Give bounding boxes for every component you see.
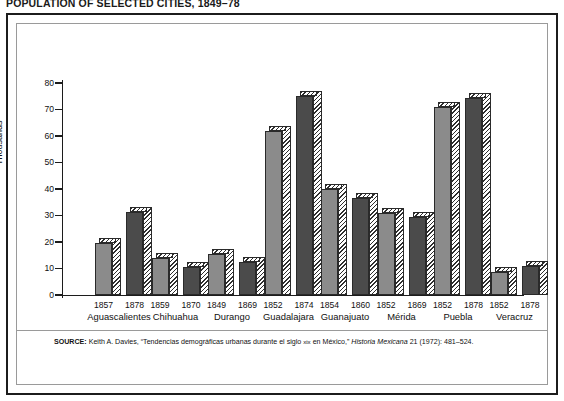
bar-body bbox=[522, 266, 539, 295]
x-axis-year-label: 1854 bbox=[312, 301, 347, 310]
bar-veracruz-1878 bbox=[522, 266, 539, 295]
source-divider bbox=[16, 330, 548, 331]
x-axis-year-label: 1878 bbox=[513, 301, 548, 310]
source-citation-tail: 21 (1972): 481–524. bbox=[408, 338, 474, 346]
y-axis-tick bbox=[55, 135, 62, 136]
y-axis-tick-label: 40 bbox=[14, 185, 54, 194]
bar-guadalajara-1874 bbox=[296, 96, 313, 295]
y-axis-tick bbox=[55, 268, 62, 269]
y-axis-tick-label: 10 bbox=[14, 264, 54, 273]
bar-body bbox=[152, 258, 169, 295]
bar-mérida-1852 bbox=[378, 213, 395, 295]
bar-puebla-1852 bbox=[434, 107, 451, 295]
bar-durango-1869 bbox=[239, 262, 256, 295]
y-axis-tick bbox=[55, 294, 62, 295]
x-axis-city-label: Veracruz bbox=[469, 312, 561, 321]
bar-guanajuato-1860 bbox=[352, 198, 369, 295]
x-axis-year-label: 1852 bbox=[369, 301, 404, 310]
bar-shadow-right bbox=[539, 261, 548, 295]
bar-body bbox=[465, 98, 482, 295]
source-journal: Historia Mexicana bbox=[351, 338, 407, 346]
bar-body bbox=[126, 212, 143, 295]
bar-body bbox=[491, 272, 508, 295]
y-axis-tick-label: 80 bbox=[14, 79, 54, 88]
y-axis-tick bbox=[55, 215, 62, 216]
bar-aguascalientes-1878 bbox=[126, 212, 143, 295]
y-axis-tick bbox=[55, 162, 62, 163]
bar-body bbox=[239, 262, 256, 295]
bar-chihuahua-1870 bbox=[183, 267, 200, 295]
bar-shadow-right bbox=[112, 238, 121, 295]
x-axis-year-label: 1857 bbox=[86, 301, 121, 310]
bar-shadow-right bbox=[282, 126, 291, 295]
y-axis-tick-label: 20 bbox=[14, 238, 54, 247]
bar-body bbox=[296, 96, 313, 295]
y-axis-tick-labels: 01020304050607080 bbox=[8, 0, 54, 401]
bar-body bbox=[183, 267, 200, 295]
bar-body bbox=[321, 189, 338, 295]
y-axis-tick bbox=[55, 82, 62, 83]
bar-shadow-right bbox=[338, 184, 347, 295]
bar-chihuahua-1859 bbox=[152, 258, 169, 295]
bar-shadow-right bbox=[395, 208, 404, 295]
bar-aguascalientes-1857 bbox=[95, 243, 112, 295]
source-author: Keith A. Davies, “Tendencias demográfica… bbox=[87, 338, 303, 346]
y-axis-title: Thousands bbox=[0, 120, 4, 165]
x-axis-year-label: 1849 bbox=[199, 301, 234, 310]
source-note: SOURCE: Keith A. Davies, “Tendencias dem… bbox=[54, 338, 524, 347]
bar-guanajuato-1854 bbox=[321, 189, 338, 295]
y-axis-tick-label: 70 bbox=[14, 105, 54, 114]
source-century: xix bbox=[303, 338, 310, 345]
bar-shadow-right bbox=[451, 102, 460, 295]
bar-body bbox=[434, 107, 451, 295]
bar-body bbox=[265, 131, 282, 295]
y-axis-tick-label: 50 bbox=[14, 158, 54, 167]
bar-puebla-1878 bbox=[465, 98, 482, 295]
x-axis-year-label: 1852 bbox=[482, 301, 517, 310]
x-axis-year-label: 1852 bbox=[256, 301, 291, 310]
bar-veracruz-1852 bbox=[491, 272, 508, 295]
bar-body bbox=[208, 254, 225, 295]
bar-shadow-right bbox=[169, 253, 178, 295]
source-middle: en México,” bbox=[311, 338, 352, 346]
y-axis-tick bbox=[55, 241, 62, 242]
x-axis-year-label: 1859 bbox=[143, 301, 178, 310]
y-axis-tick bbox=[55, 188, 62, 189]
y-axis-tick-label: 0 bbox=[14, 291, 54, 300]
bar-body bbox=[378, 213, 395, 295]
chart-plot-area bbox=[62, 83, 520, 295]
bar-shadow-right bbox=[225, 249, 234, 295]
bar-body bbox=[409, 217, 426, 295]
x-axis-year-label: 1852 bbox=[425, 301, 460, 310]
bar-durango-1849 bbox=[208, 254, 225, 295]
y-axis-tick-label: 60 bbox=[14, 132, 54, 141]
bar-mérida-1869 bbox=[409, 217, 426, 295]
bar-guadalajara-1852 bbox=[265, 131, 282, 295]
bar-body bbox=[95, 243, 112, 295]
source-label: SOURCE: bbox=[54, 338, 87, 346]
y-axis-tick bbox=[55, 109, 62, 110]
y-axis-tick-label: 30 bbox=[14, 211, 54, 220]
bar-shadow-right bbox=[482, 93, 491, 295]
bar-body bbox=[352, 198, 369, 295]
